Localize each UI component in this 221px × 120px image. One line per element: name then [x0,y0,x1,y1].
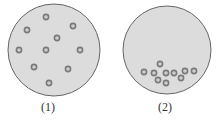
particle-icon [43,47,48,52]
particle-icon [77,47,82,52]
panel-1-label: (1) [41,100,55,115]
particle-icon [191,68,196,73]
particle-icon [70,23,75,28]
panel-2 [123,6,211,94]
panel-1 [8,4,100,96]
particle-icon [182,68,187,73]
particle-icon [16,47,21,52]
particle-icon [163,70,168,75]
particle-icon [157,61,162,66]
particle-icon [151,70,156,75]
particle-icon [24,27,29,32]
panel-2-label: (2) [158,100,172,115]
particle-icon [171,70,176,75]
particle-icon [141,69,146,74]
particle-icon [43,14,48,19]
particle-icon [178,75,183,80]
particle-icon [31,64,36,69]
particle-icon [54,35,59,40]
particle-icon [163,80,168,85]
particle-icon [155,77,160,82]
particle-icon [46,80,51,85]
diagram-canvas [0,0,221,120]
particle-icon [65,66,70,71]
